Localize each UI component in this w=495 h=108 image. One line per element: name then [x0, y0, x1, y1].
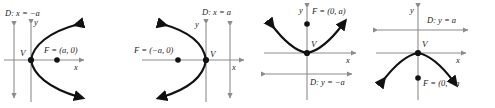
focus-label: F = (0, a)	[311, 6, 346, 16]
vertex-point	[415, 50, 421, 56]
focus-point	[54, 57, 60, 63]
vertex-label: V	[422, 39, 429, 49]
directrix-label: D: y = −a	[309, 77, 345, 87]
y-axis-label: y	[33, 17, 38, 27]
y-axis-label: y	[298, 5, 303, 15]
panel-down-opening: y D: y = a V x F = (0, −a	[372, 0, 495, 108]
vertex-point	[203, 57, 209, 63]
x-axis-label: x	[73, 62, 78, 72]
focus-label: F = (−a, 0)	[133, 45, 173, 55]
x-axis-label: x	[345, 55, 350, 65]
directrix-label: D: y = a	[426, 15, 456, 25]
y-axis-label: y	[409, 5, 414, 15]
focus-point	[304, 21, 310, 27]
vertex-point	[304, 50, 310, 56]
x-axis-label: x	[455, 55, 460, 65]
focus-point	[175, 57, 181, 63]
vertex-label: V	[20, 48, 27, 58]
y-axis-label: y	[194, 19, 199, 29]
focus-label: F = (a, 0)	[43, 45, 78, 55]
panel-right-opening: D: x = −a y x V F = (a, 0)	[0, 0, 122, 108]
vertex-point	[28, 57, 34, 63]
panel-up-opening: y F = (0, a) V x D: y = −a	[248, 0, 372, 108]
x-axis-label: x	[231, 62, 236, 72]
vertex-label: V	[311, 39, 318, 49]
directrix-label: D: x = a	[201, 7, 231, 17]
focus-label: F = (0, −a	[422, 78, 460, 88]
focus-point	[415, 75, 421, 81]
parabola-figure-strip: D: x = −a y x V F = (a, 0)	[0, 0, 495, 108]
vertex-label: V	[210, 49, 217, 59]
panel-left-opening: D: x = a y x V F = (−a, 0)	[122, 0, 248, 108]
